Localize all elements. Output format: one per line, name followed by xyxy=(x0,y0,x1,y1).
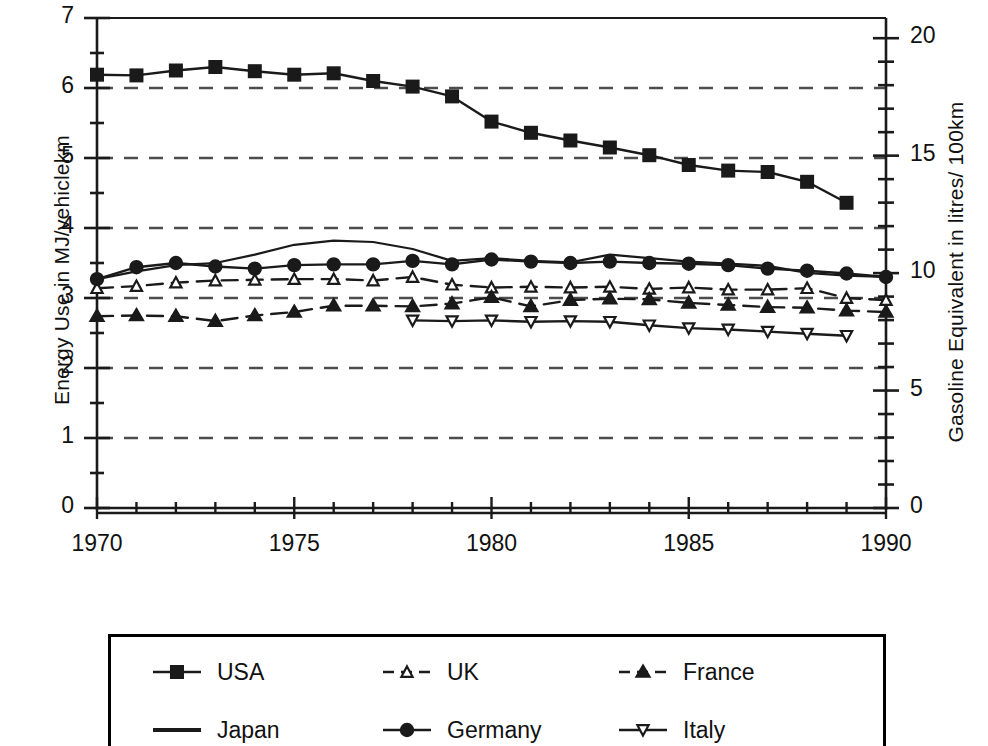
data-point-marker xyxy=(288,259,301,272)
data-point-marker xyxy=(130,69,142,81)
data-point-marker xyxy=(209,61,221,73)
data-point-marker xyxy=(841,292,852,302)
data-point-marker xyxy=(170,257,183,270)
legend-item-japan[interactable]: Japan xyxy=(151,715,280,745)
data-point-marker xyxy=(525,127,537,139)
data-point-marker xyxy=(401,666,412,676)
data-point-marker xyxy=(880,271,893,284)
legend-marker-open-triangle-up xyxy=(381,659,433,685)
data-point-marker xyxy=(801,264,814,277)
data-point-marker xyxy=(486,316,497,326)
data-point-marker xyxy=(406,80,418,92)
data-point-marker xyxy=(407,271,418,281)
data-point-marker xyxy=(91,69,103,81)
data-point-marker xyxy=(802,329,813,339)
data-point-marker xyxy=(604,281,615,291)
data-point-marker xyxy=(485,253,498,266)
data-point-marker xyxy=(170,277,181,287)
data-point-marker xyxy=(841,331,852,341)
data-point-marker xyxy=(762,284,773,294)
series-italy xyxy=(407,316,852,342)
data-point-marker xyxy=(446,316,457,326)
data-point-marker xyxy=(564,134,576,146)
data-point-marker xyxy=(683,323,694,333)
chart-legend: USAUKFranceJapanGermanyItaly xyxy=(108,634,886,746)
data-point-marker xyxy=(603,255,616,268)
series-usa xyxy=(91,61,853,209)
data-point-marker xyxy=(328,67,340,79)
legend-label: Italy xyxy=(683,717,725,744)
data-point-marker xyxy=(565,282,576,292)
data-point-marker xyxy=(249,65,261,77)
data-point-marker xyxy=(171,666,183,678)
data-point-marker xyxy=(401,724,414,737)
legend-label: France xyxy=(683,659,755,686)
data-point-marker xyxy=(683,159,695,171)
data-point-marker xyxy=(367,75,379,87)
data-point-marker xyxy=(565,316,576,326)
data-point-marker xyxy=(130,261,143,274)
data-point-marker xyxy=(525,281,536,291)
data-point-marker xyxy=(801,176,813,188)
data-point-marker xyxy=(367,258,380,271)
data-point-marker xyxy=(446,258,459,271)
legend-item-germany[interactable]: Germany xyxy=(381,715,542,745)
data-point-marker xyxy=(683,282,694,292)
legend-item-france[interactable]: France xyxy=(617,657,755,687)
legend-label: USA xyxy=(217,659,264,686)
data-point-marker xyxy=(406,255,419,268)
data-point-marker xyxy=(604,317,615,327)
legend-item-usa[interactable]: USA xyxy=(151,657,264,687)
data-point-marker xyxy=(446,90,458,102)
data-point-marker xyxy=(289,274,300,284)
legend-item-uk[interactable]: UK xyxy=(381,657,479,687)
data-point-marker xyxy=(525,317,536,327)
data-point-marker xyxy=(327,299,341,311)
data-point-marker xyxy=(722,164,734,176)
legend-item-italy[interactable]: Italy xyxy=(617,715,725,745)
legend-marker-open-triangle-down xyxy=(617,717,669,743)
data-point-marker xyxy=(564,257,577,270)
data-point-marker xyxy=(637,725,648,735)
data-point-marker xyxy=(169,309,183,321)
data-point-marker xyxy=(762,327,773,337)
legend-label: Germany xyxy=(447,717,542,744)
data-point-marker xyxy=(170,64,182,76)
legend-marker-none xyxy=(151,717,203,743)
legend-marker-filled-circle xyxy=(381,717,433,743)
data-point-marker xyxy=(407,316,418,326)
data-point-marker xyxy=(131,281,142,291)
data-point-marker xyxy=(682,257,695,270)
data-point-marker xyxy=(248,262,261,275)
data-point-marker xyxy=(485,115,497,127)
data-point-marker xyxy=(840,197,852,209)
data-point-marker xyxy=(328,274,339,284)
legend-marker-filled-triangle-up xyxy=(617,659,669,685)
data-point-marker xyxy=(643,149,655,161)
data-point-marker xyxy=(840,267,853,280)
data-point-marker xyxy=(327,258,340,271)
data-point-marker xyxy=(802,283,813,293)
data-point-marker xyxy=(644,321,655,331)
series-line xyxy=(413,320,847,335)
data-point-marker xyxy=(643,257,656,270)
data-point-marker xyxy=(723,325,734,335)
legend-label: UK xyxy=(447,659,479,686)
data-point-marker xyxy=(91,273,104,286)
data-point-marker xyxy=(446,279,457,289)
data-point-marker xyxy=(210,275,221,285)
data-point-marker xyxy=(761,166,773,178)
data-point-marker xyxy=(209,260,222,273)
data-point-marker xyxy=(525,255,538,268)
data-point-marker xyxy=(723,284,734,294)
chart-figure: Energy Use in MJ/vehiclekm Gasoline Equi… xyxy=(0,0,988,746)
legend-label: Japan xyxy=(217,717,280,744)
data-point-marker xyxy=(368,275,379,285)
data-point-marker xyxy=(761,262,774,275)
data-point-marker xyxy=(722,259,735,272)
legend-marker-filled-square xyxy=(151,659,203,685)
plot-area xyxy=(0,0,988,560)
data-point-marker xyxy=(288,69,300,81)
data-point-marker xyxy=(604,141,616,153)
